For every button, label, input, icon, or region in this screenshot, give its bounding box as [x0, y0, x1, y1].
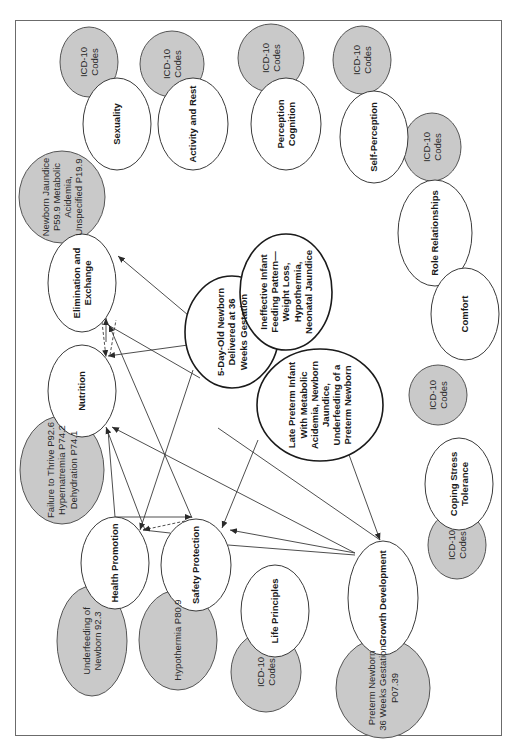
- icd-codes-life-principles: ICD-10 Codes: [243, 642, 289, 702]
- icd-codes-nutrition: Failure to Thrive P92.6 Hypernatremia P7…: [27, 420, 97, 520]
- icd-codes-safety: Hypothermia P80.9: [152, 595, 204, 685]
- node-safety-protection: Safety Protection: [168, 525, 224, 605]
- node-activity-rest: Activity and Rest: [165, 84, 221, 164]
- icd-codes-role: ICD-10 Codes: [409, 117, 455, 177]
- core-medical-diagnosis: Late Preterm Infant With Metabolic Acide…: [266, 357, 374, 453]
- figure-caption-cropped: [505, 460, 519, 740]
- node-elimination-exchange: Elimination and Exchange: [54, 241, 110, 325]
- node-self-perception: Self-Perception: [346, 97, 402, 177]
- icd-codes-perception: ICD-10 Codes: [248, 28, 294, 88]
- node-growth-development: Growth Development: [355, 550, 411, 646]
- icd-codes-health-promotion: Underfeeding of Newborn 92.3: [66, 596, 118, 686]
- node-comfort: Comfort: [437, 274, 493, 354]
- icd-codes-comfort: ICD-10 Codes: [415, 367, 461, 423]
- icd-codes-self-perception: ICD-10 Codes: [339, 30, 385, 90]
- icd-codes-growth: Preterm Newborn 36 Weeks Gestation P07.3…: [348, 645, 418, 731]
- core-nursing-diagnosis: Ineffective Infant Feeding Pattern—Weigh…: [247, 243, 325, 341]
- node-life-principles: Life Principles: [247, 571, 303, 651]
- node-role-relationships: Role Relationships: [407, 188, 463, 278]
- icd-codes-coping: ICD-10 Codes: [434, 515, 480, 575]
- node-nutrition: Nutrition: [54, 351, 110, 431]
- icd-codes-elimination: Newborn Jaundice P59.9 Metabolic Acidemi…: [26, 154, 98, 240]
- node-health-promotion: Health Promotion: [87, 523, 143, 603]
- node-coping-stress-tolerance: Coping Stress Tolerance: [431, 444, 487, 524]
- node-perception-cognition: Perception Cognition: [258, 84, 314, 164]
- node-sexuality: Sexuality: [89, 84, 145, 164]
- icd-codes-sexuality: ICD-10 Codes: [66, 32, 112, 92]
